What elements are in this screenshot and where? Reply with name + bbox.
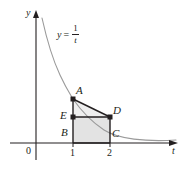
equation-lhs: y [57, 29, 61, 40]
point-marker-A [71, 97, 76, 102]
equation-numerator: 1 [72, 24, 79, 34]
point-marker-D [108, 115, 113, 120]
equation-equals-sign: = [63, 29, 69, 40]
tick-label-2: 2 [107, 148, 112, 158]
equation-denominator: t [73, 35, 78, 45]
point-label-B: B [61, 127, 68, 138]
figure-area-under-reciprocal-curve: y = 1 t y t 0 1 2 A E B D C [0, 0, 189, 170]
point-label-E: E [60, 110, 67, 121]
tick-label-1: 1 [70, 148, 75, 158]
y-axis-label: y [26, 8, 30, 18]
y-axis-arrowhead-icon [33, 10, 39, 18]
origin-label: 0 [26, 146, 31, 156]
equation-fraction: 1 t [72, 24, 79, 45]
curve-equation-label: y = 1 t [57, 24, 79, 45]
point-label-A: A [76, 85, 83, 96]
point-label-C: C [112, 128, 119, 139]
point-marker-E [71, 115, 76, 120]
t-axis-label: t [172, 146, 175, 156]
point-label-D: D [113, 105, 121, 116]
